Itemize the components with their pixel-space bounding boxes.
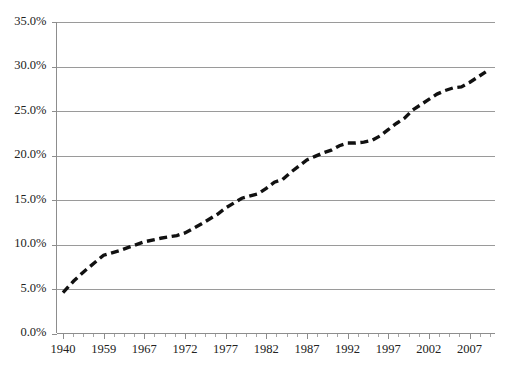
y-axis-tick-label: 35.0%	[14, 14, 46, 28]
x-axis-tick-label: 2002	[416, 342, 441, 356]
x-axis-tick-label: 1972	[172, 342, 197, 356]
x-axis-tick-label: 1987	[294, 342, 319, 356]
x-axis-tick-label: 1992	[335, 342, 360, 356]
chart-canvas: 0.0%5.0%10.0%15.0%20.0%25.0%30.0%35.0% 1…	[0, 0, 506, 378]
x-axis-tick-labels: 1940195919671972197719821987199219972002…	[51, 342, 483, 356]
y-axis-tick-label: 5.0%	[20, 281, 46, 295]
chart-background	[0, 0, 506, 378]
y-axis-tick-label: 25.0%	[14, 103, 46, 117]
x-axis-tick-label: 1977	[213, 342, 238, 356]
y-axis-tick-label: 10.0%	[14, 236, 46, 250]
x-axis-tick-label: 1967	[132, 342, 157, 356]
y-axis-tick-label: 20.0%	[14, 147, 46, 161]
y-axis-tick-label: 30.0%	[14, 58, 46, 72]
x-axis-tick-label: 1997	[376, 342, 401, 356]
x-axis-tick-label: 1959	[91, 342, 116, 356]
x-axis-tick-label: 2007	[457, 342, 482, 356]
line-chart: 0.0%5.0%10.0%15.0%20.0%25.0%30.0%35.0% 1…	[0, 0, 506, 378]
y-axis-tick-label: 15.0%	[14, 192, 46, 206]
x-axis-tick-label: 1940	[51, 342, 76, 356]
y-axis-tick-label: 0.0%	[20, 325, 46, 339]
x-axis-tick-label: 1982	[254, 342, 279, 356]
